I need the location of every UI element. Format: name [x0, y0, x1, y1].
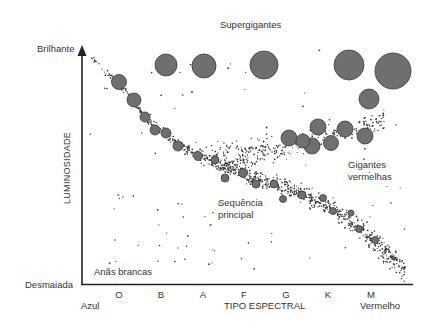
supergiant-star [155, 54, 177, 76]
main-sequence-star [356, 226, 363, 233]
main-sequence-star [320, 195, 327, 202]
main-sequence-star [280, 196, 287, 203]
red-giant-star [310, 119, 326, 135]
y-top-label: Brilhante [37, 43, 75, 55]
label-main-sequence: Sequência principal [218, 197, 263, 221]
main-sequence-star [150, 125, 160, 135]
main-sequence-star [127, 93, 141, 107]
label-red-giants-line2: vermelhas [348, 171, 392, 183]
main-sequence-star [348, 210, 354, 216]
main-sequence-star [298, 191, 306, 199]
main-sequence-star [140, 112, 150, 122]
y-axis-arrow-icon [78, 45, 87, 56]
main-sequence-star [112, 75, 127, 90]
supergiant-star [334, 50, 364, 80]
main-sequence-star [270, 180, 278, 188]
label-supergiants: Supergigantes [220, 19, 281, 31]
main-sequence-star [372, 237, 379, 244]
red-giant-star [324, 136, 339, 151]
main-sequence-star [252, 180, 260, 188]
main-sequence-star [221, 174, 229, 182]
y-axis-title: LUMINOSIDADE [62, 132, 72, 204]
y-bottom-label: Desmaiada [25, 279, 73, 291]
label-main-sequence-line2: principal [218, 209, 263, 221]
x-tick-f: F [241, 289, 247, 300]
supergiant-star [250, 51, 278, 79]
supergiant-star [359, 89, 379, 109]
red-giant-star [281, 130, 297, 146]
x-tick-m: M [367, 289, 375, 300]
red-giant-star [357, 128, 373, 144]
label-red-giants-line1: Gigantes [348, 159, 392, 171]
main-sequence-star [211, 156, 219, 164]
main-sequence-star [239, 169, 248, 178]
main-sequence-star [161, 128, 171, 138]
x-tick-k: K [325, 289, 331, 300]
main-sequence-star [173, 141, 183, 151]
x-tick-o: O [115, 289, 122, 300]
x-tick-g: G [282, 289, 289, 300]
label-main-sequence-line1: Sequência [218, 197, 263, 209]
x-tick-b: B [158, 289, 164, 300]
x-axis-title: TIPO ESPECTRAL [224, 300, 305, 312]
x-right-label: Vermelho [360, 300, 400, 312]
x-left-label: Azul [81, 300, 99, 312]
red-giant-star [337, 121, 353, 137]
x-tick-a: A [200, 289, 206, 300]
label-red-giants: Gigantes vermelhas [348, 159, 392, 183]
supergiant-star [192, 54, 216, 78]
main-sequence-star [194, 152, 203, 161]
supergiant-star [375, 53, 411, 89]
label-white-dwarfs: Anãs brancas [94, 266, 152, 278]
main-sequence-star [330, 208, 337, 215]
red-giant-star [296, 134, 310, 148]
